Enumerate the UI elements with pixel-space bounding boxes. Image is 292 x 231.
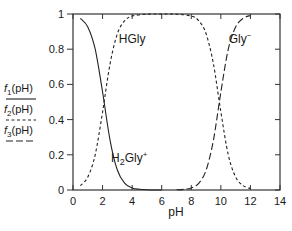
x-tick-label: 10 <box>215 195 227 207</box>
gly-minus-label: Gly− <box>229 31 252 46</box>
legend-label-f1: f1(pH) <box>4 82 33 97</box>
x-axis-label: pH <box>168 205 183 219</box>
x-tick-label: 14 <box>274 195 286 207</box>
y-tick-label: 1 <box>58 8 64 20</box>
x-tick-label: 6 <box>159 195 165 207</box>
hgly-label: HGly <box>119 32 146 46</box>
y-tick-label: 0.6 <box>49 78 64 90</box>
h2gly-plus-label: H2Gly+ <box>111 150 148 167</box>
y-tick-label: 0.2 <box>49 149 64 161</box>
legend: f1(pH)f2(pH)f3(pH) <box>4 82 36 141</box>
x-tick-label: 12 <box>244 195 256 207</box>
legend-label-f3: f3(pH) <box>4 124 33 139</box>
x-tick-label: 0 <box>70 195 76 207</box>
y-tick-label: 0 <box>58 184 64 196</box>
x-tick-label: 2 <box>100 195 106 207</box>
legend-label-f2: f2(pH) <box>4 103 33 118</box>
x-tick-label: 4 <box>129 195 135 207</box>
x-tick-label: 8 <box>188 195 194 207</box>
species-distribution-chart: 02468101214 00.20.40.60.81 HGlyGly−H2Gly… <box>0 0 292 231</box>
curves <box>80 14 250 190</box>
curve-f2 <box>80 14 250 189</box>
y-tick-label: 0.4 <box>49 114 64 126</box>
curve-labels: HGlyGly−H2Gly+ <box>111 31 252 168</box>
y-tick-label: 0.8 <box>49 43 64 55</box>
